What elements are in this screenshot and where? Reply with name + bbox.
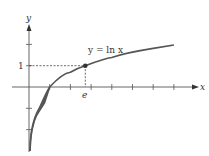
x-axis-label: x — [200, 82, 205, 92]
ln-curve-main — [30, 45, 174, 151]
x-axis-arrow-icon — [192, 85, 199, 90]
x-tick-label-e: e — [82, 90, 87, 100]
y-tick-label-1: 1 — [18, 61, 24, 71]
ln-graph: y x 1 e y = ln x — [0, 0, 209, 156]
y-axis-label: y — [25, 13, 32, 23]
function-label: y = ln x — [87, 45, 123, 55]
y-axis-arrow-icon — [27, 24, 32, 31]
point-e-1 — [83, 63, 88, 68]
ln-curve — [30, 87, 50, 151]
